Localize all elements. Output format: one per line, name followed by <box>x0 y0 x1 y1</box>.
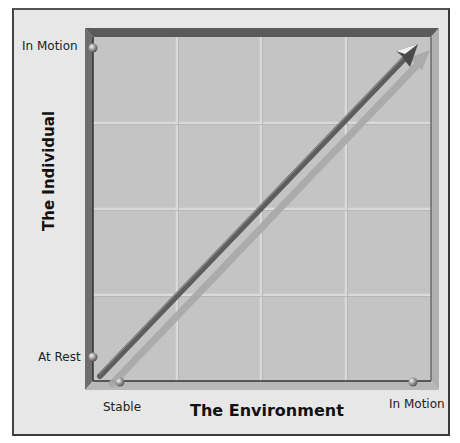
frame-left-bevel <box>85 28 93 390</box>
x-max-marker-icon <box>409 378 418 387</box>
y-axis-max-label: In Motion <box>22 39 78 53</box>
frame-top-bevel <box>85 28 439 37</box>
diagram-frame <box>0 0 460 443</box>
y-min-marker-icon <box>89 353 98 362</box>
x-axis-title: The Environment <box>190 401 344 420</box>
y-max-marker-icon <box>89 44 98 53</box>
frame-right-bevel <box>431 28 439 390</box>
y-axis-title: The Individual <box>40 111 58 231</box>
x-min-marker-icon <box>116 378 125 387</box>
frame-bottom-bevel <box>85 381 439 390</box>
y-axis-min-label: At Rest <box>38 350 81 364</box>
x-axis-max-label: In Motion <box>389 397 445 411</box>
x-axis-min-label: Stable <box>103 400 141 414</box>
